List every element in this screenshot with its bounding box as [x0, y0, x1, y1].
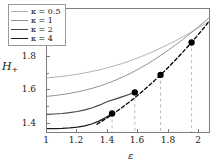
legend-item-kappa-2: κ = 2 [11, 25, 61, 34]
legend-label-kappa-1: κ = 1 [31, 16, 53, 25]
series-group [47, 18, 209, 129]
xtick-mark-1_4 [107, 129, 108, 133]
legend-item-kappa-0_5: κ = 0.5 [11, 7, 61, 16]
ytick-label-1_6: 1.6 [10, 84, 36, 94]
series-line--2 [47, 92, 135, 114]
y-axis-label-subscript: + [12, 65, 19, 74]
data-point-marker-3 [188, 39, 194, 45]
data-point-marker-1 [132, 89, 138, 95]
legend: κ = 0.5 κ = 1 κ = 2 κ = 4 [8, 4, 66, 46]
ytick-mark-minor-2 [46, 73, 49, 74]
series-line-limit-curve [97, 22, 209, 125]
legend-swatch-kappa-4 [11, 38, 28, 39]
xtick-mark-1_6 [137, 129, 138, 133]
xtick-label-1: 1 [43, 135, 49, 145]
legend-item-kappa-1: κ = 1 [11, 16, 61, 25]
x-axis-label: ε [128, 150, 133, 161]
legend-label-kappa-0_5: κ = 0.5 [31, 7, 61, 16]
plot-area [46, 8, 210, 133]
xtick-mark-2 [198, 129, 199, 133]
ytick-mark-1_8 [46, 56, 50, 57]
chart-figure: 2 1.8 1.6 1.4 1 1.2 1.4 1.6 1.8 2 H+ ε κ… [0, 0, 222, 165]
xtick-mark-1 [46, 129, 47, 133]
xtick-label-1_8: 1.8 [161, 135, 175, 145]
y-axis-label: H+ [2, 60, 18, 74]
legend-swatch-kappa-1 [11, 20, 28, 21]
ytick-mark-minor-3 [46, 106, 49, 107]
plot-svg [47, 9, 209, 132]
xtick-label-1_4: 1.4 [100, 135, 114, 145]
legend-swatch-kappa-0_5 [11, 11, 28, 12]
ytick-label-1_4: 1.4 [10, 118, 36, 128]
legend-item-kappa-4: κ = 4 [11, 34, 61, 43]
xtick-mark-1_8 [168, 129, 169, 133]
legend-label-kappa-2: κ = 2 [31, 25, 53, 34]
y-axis-label-main: H [2, 60, 12, 73]
series-line--1 [47, 18, 209, 97]
data-point-marker-0 [109, 110, 115, 116]
ytick-mark-1_4 [46, 123, 50, 124]
xtick-mark-1_2 [76, 129, 77, 133]
ytick-mark-1_6 [46, 89, 50, 90]
data-point-marker-2 [157, 72, 163, 78]
xtick-label-1_2: 1.2 [69, 135, 83, 145]
legend-label-kappa-4: κ = 4 [31, 34, 53, 43]
xtick-label-2: 2 [195, 135, 201, 145]
marker-group [109, 39, 195, 116]
xtick-label-1_6: 1.6 [130, 135, 144, 145]
legend-swatch-kappa-2 [11, 29, 28, 30]
